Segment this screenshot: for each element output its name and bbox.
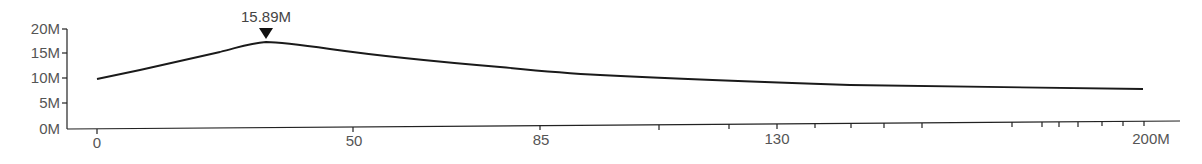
x-axis: 0 50 85 130 200M	[67, 121, 1180, 151]
peak-value-label: 15.89M	[241, 8, 291, 25]
x-tick-label-50: 50	[346, 132, 363, 149]
x-tick-label-130: 130	[764, 130, 789, 147]
x-tick-label-0: 0	[93, 134, 101, 151]
y-tick-label-5m: 5M	[39, 94, 60, 111]
x-tick-label-85: 85	[533, 131, 550, 148]
data-line	[97, 42, 1143, 89]
x-tick-label-200m: 200M	[1132, 130, 1170, 147]
y-axis: 20M 15M 10M 5M 0M	[31, 20, 67, 137]
line-chart: 20M 15M 10M 5M 0M 0 50 85 130 200M	[0, 0, 1202, 164]
y-tick-label-10m: 10M	[31, 69, 60, 86]
peak-annotation: 15.89M	[241, 8, 291, 39]
y-tick-label-15m: 15M	[31, 44, 60, 61]
y-tick-label-0m: 0M	[39, 120, 60, 137]
y-tick-label-20m: 20M	[31, 20, 60, 37]
down-triangle-marker-icon	[259, 28, 273, 39]
